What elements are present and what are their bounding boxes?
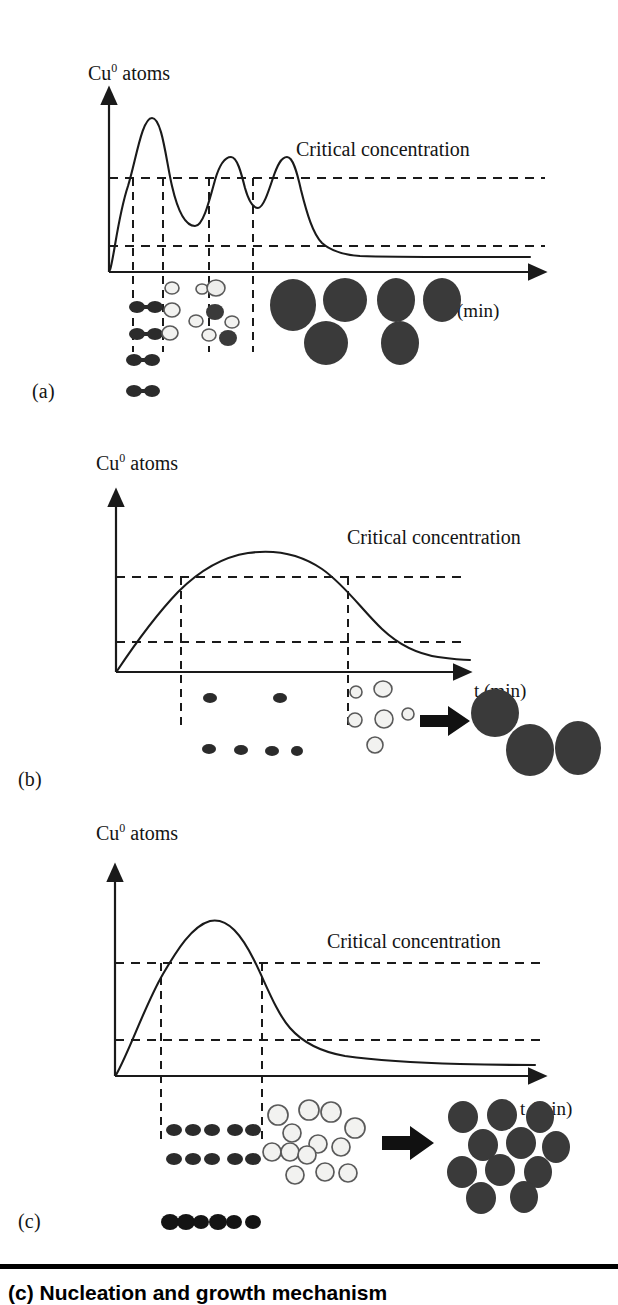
particle-group-open-b	[348, 681, 414, 753]
axes-c	[115, 880, 530, 1076]
particle-group-nuclei-c	[166, 1124, 261, 1165]
particle-group-grown-a	[270, 278, 461, 365]
panel-a: Cu0 atoms Critical concentration t (min)…	[0, 0, 618, 430]
crossing-droplines-c	[161, 963, 262, 1140]
particle-group-grown-c	[447, 1099, 570, 1214]
panel-c: Cu0 atoms Critical concentration t (min)…	[0, 800, 618, 1260]
particle-group-nuclei-b	[202, 693, 303, 756]
particle-group-grown-b	[471, 689, 601, 776]
caption-divider	[0, 1264, 618, 1269]
transformation-arrow-b	[420, 706, 470, 736]
axes-b	[116, 505, 455, 672]
particle-group-dimers-a	[126, 301, 163, 397]
transformation-arrow-c	[382, 1126, 434, 1160]
concentration-curve-b	[117, 552, 470, 671]
crossing-droplines-b	[181, 577, 348, 730]
figure-caption: (c) Nucleation and growth mechanism	[8, 1281, 618, 1305]
particle-group-chain-c	[161, 1214, 261, 1230]
particle-group-open-small-a	[162, 282, 208, 340]
panel-b: Cu0 atoms Critical concentration t (min)…	[0, 430, 618, 800]
concentration-curve-c	[116, 920, 535, 1075]
concentration-curve-a	[110, 118, 530, 270]
particle-group-open-c	[263, 1100, 365, 1184]
particle-group-mixed-a	[202, 280, 239, 346]
